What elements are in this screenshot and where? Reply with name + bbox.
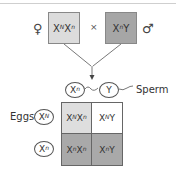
eggs-label: Eggs	[10, 111, 34, 122]
female-genotype-box: XNXn	[48, 12, 80, 44]
male-symbol: ♂	[142, 22, 154, 35]
punnett-cell: XnY	[92, 134, 122, 165]
punnett-cell: XNY	[92, 103, 122, 134]
male-genotype-box: XnY	[105, 12, 137, 44]
cross-symbol: ×	[90, 22, 98, 32]
punnett-square: XNXn XNY XnXn XnY	[61, 102, 123, 166]
sperm-gamete-xn: Xn	[65, 82, 85, 98]
sperm-gamete-y: Y	[99, 82, 119, 98]
punnett-cell: XNXn	[62, 103, 92, 134]
female-symbol: ♀	[33, 22, 43, 35]
punnett-cell: XnXn	[62, 134, 92, 165]
egg-gamete-xN: XN	[34, 109, 54, 125]
egg-gamete-xn: Xn	[34, 141, 54, 157]
sperm-label: Sperm	[136, 84, 169, 95]
